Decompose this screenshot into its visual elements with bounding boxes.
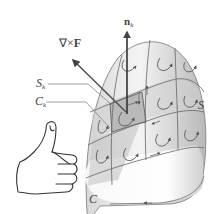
curl-label: ∇×F xyxy=(59,37,81,49)
normal-label: nk xyxy=(124,16,133,29)
ck-subscript: k xyxy=(43,101,46,109)
curl-operator: ∇× xyxy=(59,36,74,50)
stokes-diagram: ∇×F nk Sk Ck S C xyxy=(0,0,214,214)
curl-vector-symbol: F xyxy=(74,36,81,50)
thumbs-up-hand xyxy=(17,122,77,194)
sk-subscript: k xyxy=(42,83,45,91)
boundary-label: C xyxy=(89,193,97,205)
surface-symbol: S xyxy=(198,98,204,112)
patch-curve-label: Ck xyxy=(35,95,46,109)
surface-label: S xyxy=(198,99,204,111)
diagram-canvas xyxy=(0,0,214,214)
boundary-symbol: C xyxy=(89,192,97,206)
normal-subscript: k xyxy=(130,21,133,29)
ck-symbol: C xyxy=(35,94,43,108)
patch-surface-label: Sk xyxy=(36,77,45,91)
